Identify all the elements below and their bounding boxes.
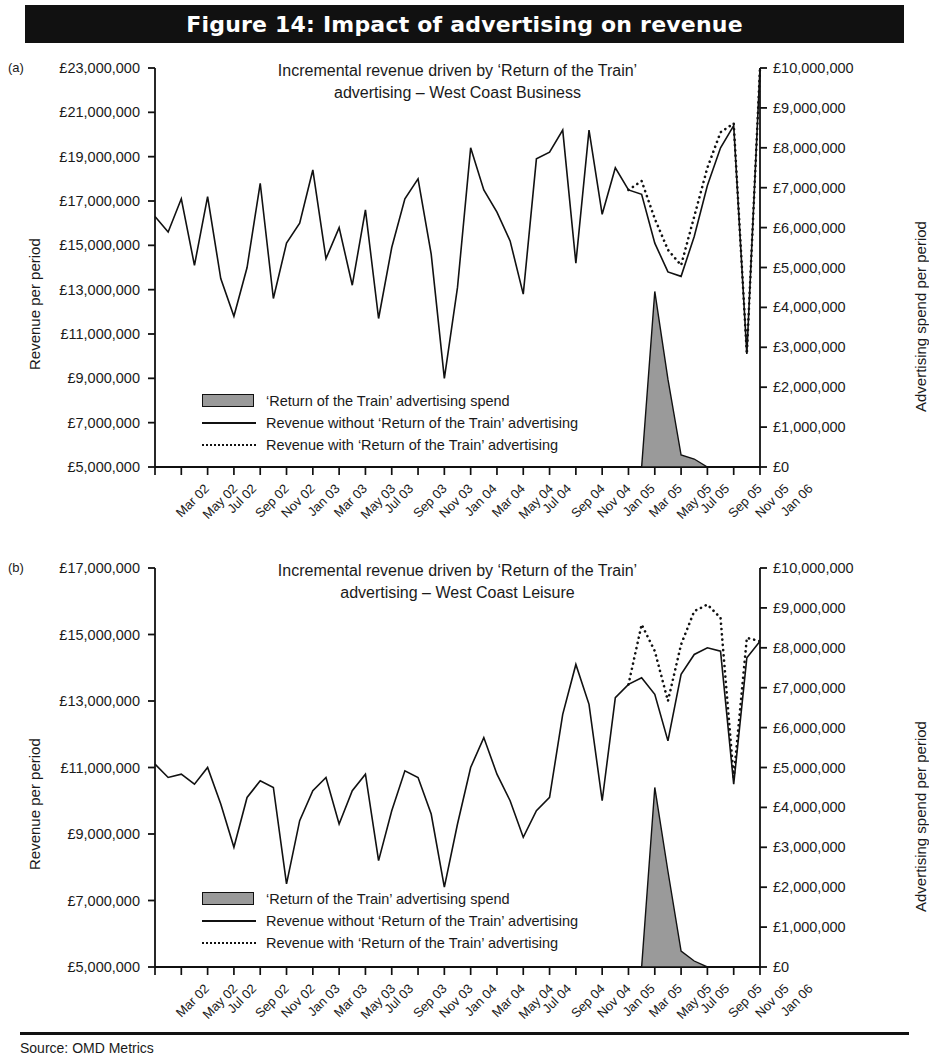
- legend-dotted-line-icon: [202, 936, 256, 950]
- panel-a-legend: ‘Return of the Train’ advertising spendR…: [202, 390, 578, 456]
- panel-a-legend-item-1[interactable]: Revenue without ‘Return of the Train’ ad…: [202, 412, 578, 434]
- spend-area-swatch: [202, 892, 254, 905]
- dotted-line-sample: [202, 942, 256, 944]
- panel-b-legend-label-1: Revenue without ‘Return of the Train’ ad…: [266, 913, 578, 929]
- panel-a: (a)Incremental revenue driven by ‘Return…: [0, 50, 929, 550]
- solid-line-sample: [202, 920, 256, 922]
- panel-b: (b)Incremental revenue driven by ‘Return…: [0, 550, 929, 1010]
- panel-b-legend-item-0[interactable]: ‘Return of the Train’ advertising spend: [202, 888, 578, 910]
- dotted-line-sample: [202, 444, 256, 446]
- panel-b-legend-item-1[interactable]: Revenue without ‘Return of the Train’ ad…: [202, 910, 578, 932]
- figure-title: Figure 14: Impact of advertising on reve…: [186, 12, 743, 37]
- panel-a-legend-item-2[interactable]: Revenue with ‘Return of the Train’ adver…: [202, 434, 578, 456]
- source-note: Source: OMD Metrics: [20, 1040, 154, 1056]
- legend-swatch-icon: [202, 394, 256, 408]
- legend-solid-line-icon: [202, 416, 256, 430]
- panel-b-legend-label-2: Revenue with ‘Return of the Train’ adver…: [266, 935, 558, 951]
- panel-b-legend-label-0: ‘Return of the Train’ advertising spend: [266, 891, 510, 907]
- panel-a-legend-label-1: Revenue without ‘Return of the Train’ ad…: [266, 415, 578, 431]
- legend-solid-line-icon: [202, 914, 256, 928]
- legend-dotted-line-icon: [202, 438, 256, 452]
- bottom-divider: [20, 1032, 909, 1035]
- panel-b-legend: ‘Return of the Train’ advertising spendR…: [202, 888, 578, 954]
- panel-a-legend-label-2: Revenue with ‘Return of the Train’ adver…: [266, 437, 558, 453]
- legend-swatch-icon: [202, 892, 256, 906]
- panel-a-legend-label-0: ‘Return of the Train’ advertising spend: [266, 393, 510, 409]
- solid-line-sample: [202, 422, 256, 424]
- figure-banner: Figure 14: Impact of advertising on reve…: [25, 5, 904, 43]
- panel-b-legend-item-2[interactable]: Revenue with ‘Return of the Train’ adver…: [202, 932, 578, 954]
- spend-area-swatch: [202, 394, 254, 407]
- panel-a-plot: [0, 50, 929, 550]
- panel-a-legend-item-0[interactable]: ‘Return of the Train’ advertising spend: [202, 390, 578, 412]
